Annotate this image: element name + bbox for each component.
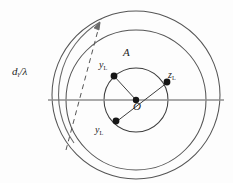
label-zl-right: zL (168, 70, 176, 80)
label-yl-bottom: yL (95, 125, 103, 135)
label-d: d (12, 65, 18, 77)
label-center-o: O (133, 101, 141, 112)
diagram-svg (0, 0, 233, 183)
label-y-bottom-subscript: L (99, 129, 103, 136)
marker-yl-bottom (113, 118, 120, 125)
label-over-lambda: /λ (19, 65, 27, 77)
label-yl-top: yL (99, 60, 107, 70)
marker-yl-top (111, 73, 118, 80)
figure-canvas: dl/λ yL A zL O yL (0, 0, 233, 183)
outer-circle (52, 11, 220, 179)
radius-to-yl-top (114, 76, 136, 100)
rotation-arc (59, 22, 100, 143)
label-distance-over-lambda: dl/λ (12, 66, 27, 77)
chord-yl-to-zl (116, 82, 168, 122)
label-y-top-subscript: L (103, 64, 107, 71)
label-point-a: A (123, 47, 130, 58)
label-z-subscript: L (172, 74, 176, 81)
